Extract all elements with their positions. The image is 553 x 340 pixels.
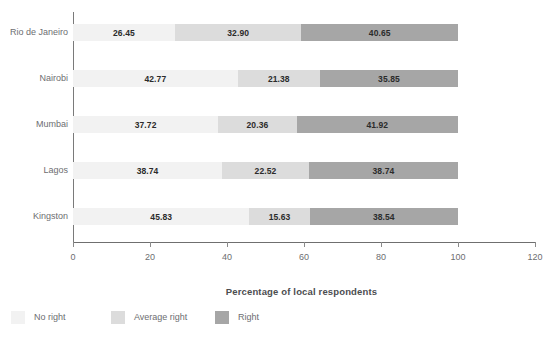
x-axis-tick-label: 80 [376, 252, 386, 262]
category-label: Kingston [0, 211, 68, 221]
bar-value-label: 38.74 [373, 166, 395, 176]
x-axis-tick [381, 242, 382, 247]
bar-segment[interactable]: 38.74 [309, 162, 458, 179]
bar-segment[interactable]: 20.36 [218, 116, 296, 133]
bar-value-label: 22.52 [255, 166, 277, 176]
bar-value-label: 45.83 [150, 212, 172, 222]
bar-segment[interactable]: 32.90 [175, 24, 302, 41]
bar-value-label: 40.65 [369, 28, 391, 38]
bar-segment[interactable]: 35.85 [320, 70, 458, 87]
bar-segment[interactable]: 21.38 [238, 70, 320, 87]
bar-value-label: 38.54 [373, 212, 395, 222]
bar-value-label: 21.38 [268, 74, 290, 84]
legend-swatch [11, 311, 25, 324]
bar-value-label: 38.74 [137, 166, 159, 176]
category-label: Lagos [0, 165, 68, 175]
bar-row[interactable]: 42.7721.3835.85 [73, 70, 535, 87]
plot-area: 020406080100120 26.4532.9040.6542.7721.3… [73, 12, 535, 242]
bar-segment[interactable]: 38.54 [310, 208, 458, 225]
bar-value-label: 15.63 [269, 212, 291, 222]
legend-swatch [215, 311, 229, 324]
bar-segment[interactable]: 26.45 [73, 24, 175, 41]
legend-label: Right [238, 312, 259, 322]
bar-value-label: 26.45 [113, 28, 135, 38]
bar-segment[interactable]: 22.52 [222, 162, 309, 179]
bar-value-label: 42.77 [144, 74, 166, 84]
bar-row[interactable]: 37.7220.3641.92 [73, 116, 535, 133]
x-axis-tick [73, 242, 74, 247]
legend-item[interactable]: Right [215, 310, 259, 324]
bar-segment[interactable]: 42.77 [73, 70, 238, 87]
bar-value-label: 20.36 [247, 120, 269, 130]
bar-segment[interactable]: 38.74 [73, 162, 222, 179]
bar-segment[interactable]: 40.65 [301, 24, 458, 41]
legend-label: Average right [134, 312, 187, 322]
x-axis-tick-label: 0 [70, 252, 75, 262]
bar-row[interactable]: 26.4532.9040.65 [73, 24, 535, 41]
x-axis-tick [150, 242, 151, 247]
x-axis-tick [304, 242, 305, 247]
legend-item[interactable]: No right [11, 310, 66, 324]
bar-segment[interactable]: 41.92 [297, 116, 458, 133]
x-axis-tick [458, 242, 459, 247]
stacked-bar-chart: 020406080100120 26.4532.9040.6542.7721.3… [0, 0, 553, 340]
legend-label: No right [34, 312, 66, 322]
x-axis-tick-label: 120 [527, 252, 542, 262]
bar-value-label: 37.72 [135, 120, 157, 130]
x-axis-title: Percentage of local respondents [0, 286, 553, 297]
legend-swatch [111, 311, 125, 324]
bar-row[interactable]: 45.8315.6338.54 [73, 208, 535, 225]
x-axis-tick [227, 242, 228, 247]
x-axis-tick [535, 242, 536, 247]
bar-segment[interactable]: 15.63 [249, 208, 309, 225]
category-label: Nairobi [0, 73, 68, 83]
bar-segment[interactable]: 37.72 [73, 116, 218, 133]
bar-value-label: 32.90 [227, 28, 249, 38]
x-axis-tick-label: 20 [145, 252, 155, 262]
legend-item[interactable]: Average right [111, 310, 187, 324]
bar-value-label: 41.92 [366, 120, 388, 130]
category-label: Rio de Janeiro [0, 27, 68, 37]
category-label: Mumbai [0, 119, 68, 129]
x-axis-tick-label: 60 [299, 252, 309, 262]
bar-value-label: 35.85 [378, 74, 400, 84]
bar-segment[interactable]: 45.83 [73, 208, 249, 225]
x-axis-tick-label: 100 [450, 252, 465, 262]
bar-row[interactable]: 38.7422.5238.74 [73, 162, 535, 179]
x-axis-tick-label: 40 [222, 252, 232, 262]
